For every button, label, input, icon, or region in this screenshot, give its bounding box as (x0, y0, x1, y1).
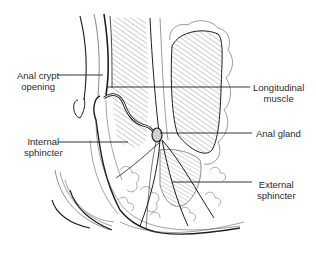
label-anal-crypt-opening: Anal crypt opening (17, 70, 59, 92)
internal-sphincter-band (112, 18, 149, 148)
label-anal-gland: Anal gland (256, 128, 301, 139)
label-text: opening (17, 81, 59, 92)
external-sphincter-deep (170, 21, 233, 165)
label-text: sphincter (257, 190, 296, 201)
label-text: Anal gland (256, 128, 301, 139)
label-text: Anal crypt (17, 70, 59, 81)
label-longitudinal-muscle: Longitudinal muscle (253, 82, 304, 104)
label-internal-sphincter: Internal sphincter (24, 136, 63, 158)
label-text: sphincter (24, 147, 63, 158)
label-text: Longitudinal (253, 82, 304, 93)
label-text: muscle (253, 93, 304, 104)
label-external-sphincter: External sphincter (257, 179, 296, 201)
label-text: Internal (24, 136, 63, 147)
label-text: External (257, 179, 296, 190)
